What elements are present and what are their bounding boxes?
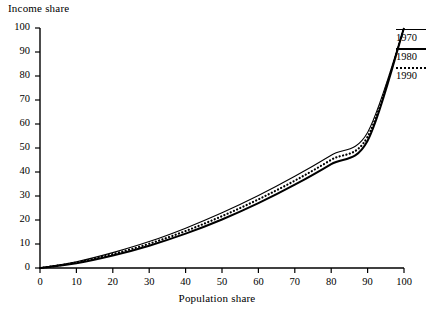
y-tick-label: 100 [0, 21, 30, 32]
y-tick-label: 20 [0, 213, 30, 224]
y-tick-label: 10 [0, 237, 30, 248]
series-line-1990 [40, 28, 404, 268]
x-tick-label: 30 [134, 276, 164, 287]
series-line-1970 [40, 28, 404, 268]
x-tick-label: 40 [171, 276, 201, 287]
legend-rule-1970 [396, 29, 426, 30]
y-tick-label: 40 [0, 165, 30, 176]
legend-entry-1990[interactable]: 1990 [396, 64, 434, 82]
legend-label-1990: 1990 [396, 70, 434, 82]
y-tick-label: 70 [0, 93, 30, 104]
plot-area [0, 0, 434, 317]
lorenz-curve-chart: Income share Population share 0102030405… [0, 0, 434, 317]
x-tick-label: 70 [280, 276, 310, 287]
x-tick-label: 10 [61, 276, 91, 287]
y-tick-label: 30 [0, 189, 30, 200]
y-tick-label: 60 [0, 117, 30, 128]
legend-entry-1980[interactable]: 1980 [396, 45, 434, 63]
y-tick-label: 90 [0, 45, 30, 56]
legend-swatch-1990 [396, 64, 426, 70]
x-tick-label: 0 [25, 276, 55, 287]
chart-legend: 197019801990 [396, 26, 434, 83]
x-tick-label: 80 [316, 276, 346, 287]
x-tick-label: 90 [353, 276, 383, 287]
legend-rule-1990 [396, 67, 426, 69]
x-tick-label: 20 [98, 276, 128, 287]
legend-swatch-1970 [396, 26, 426, 32]
legend-entry-1970[interactable]: 1970 [396, 26, 434, 44]
x-axis-ticks [40, 268, 404, 273]
y-tick-label: 0 [0, 261, 30, 272]
x-tick-label: 100 [389, 276, 419, 287]
y-tick-label: 50 [0, 141, 30, 152]
legend-label-1980: 1980 [396, 51, 434, 63]
series-line-1980 [40, 28, 404, 268]
x-tick-label: 50 [207, 276, 237, 287]
y-tick-label: 80 [0, 69, 30, 80]
x-tick-label: 60 [243, 276, 273, 287]
legend-swatch-1980 [396, 45, 426, 51]
legend-rule-1980 [396, 48, 426, 50]
legend-label-1970: 1970 [396, 32, 434, 44]
y-axis-ticks [35, 28, 40, 268]
series-lines [40, 28, 404, 268]
axis-lines [40, 28, 404, 268]
